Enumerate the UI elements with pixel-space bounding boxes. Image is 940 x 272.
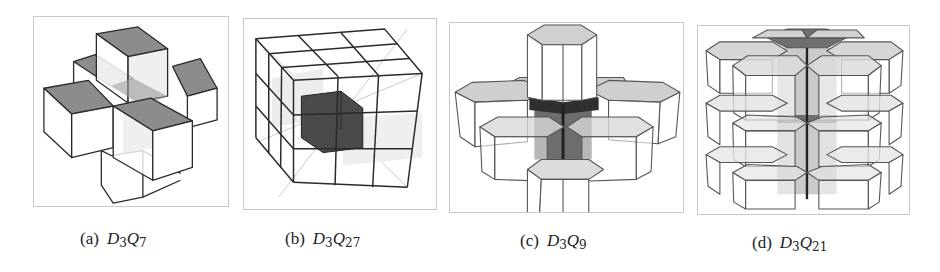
figure-d3q27 [243, 18, 437, 210]
figure-d3q21 [697, 25, 910, 215]
figure-d3q9 [449, 22, 684, 213]
d3q9-hex-diagram [450, 23, 683, 212]
d3q27-cube-diagram [244, 19, 436, 209]
d3q21-hex-diagram [698, 26, 909, 214]
caption-c: (c)D3Q9 [520, 230, 587, 252]
d3q7-cube-diagram [34, 17, 228, 206]
caption-d: (d)D3Q21 [752, 232, 827, 254]
caption-a: (a)D3Q7 [80, 228, 147, 250]
caption-b: (b)D3Q27 [285, 228, 360, 250]
figure-d3q7 [33, 16, 229, 207]
